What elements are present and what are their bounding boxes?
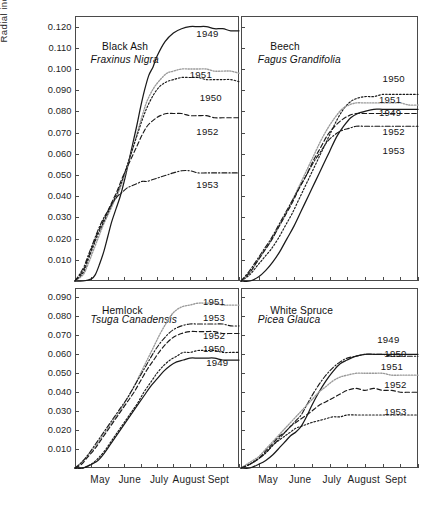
series-line-1949 xyxy=(75,358,239,468)
x-axis-label-may: May xyxy=(90,474,110,485)
series-label-1950: 1950 xyxy=(384,348,406,359)
x-axis-label-august: August xyxy=(348,474,380,485)
y-tick-label: 0.030 xyxy=(48,406,72,416)
y-tick-label: 0.050 xyxy=(48,170,72,180)
x-axis-label-august: August xyxy=(173,474,205,485)
series-line-1952 xyxy=(241,388,418,468)
series-label-1951: 1951 xyxy=(190,69,212,80)
y-tick-label: 0.070 xyxy=(48,128,72,138)
y-tick-label: 0.060 xyxy=(48,149,72,159)
x-axis-label-june: June xyxy=(118,474,141,485)
series-label-1952: 1952 xyxy=(384,379,406,390)
series-label-1949: 1949 xyxy=(377,334,399,345)
series-label-1951: 1951 xyxy=(203,296,225,307)
series-label-1953: 1953 xyxy=(203,312,225,323)
x-tick-mark xyxy=(418,464,419,468)
y-tick-label: 0.080 xyxy=(48,311,72,321)
y-tick-label: 0.050 xyxy=(48,368,72,378)
series-label-1952: 1952 xyxy=(203,330,225,341)
y-axis-title: Radial increment (in) xyxy=(0,0,9,104)
y-tick-label: 0.090 xyxy=(48,85,72,95)
panel-black-ash: 0.0100.0200.0300.0400.0500.0600.0700.080… xyxy=(75,16,239,281)
series-line-1953 xyxy=(241,415,418,468)
y-tick-label: 0.010 xyxy=(48,255,72,265)
x-axis-label-sept: Sept xyxy=(385,474,406,485)
y-tick-label: 0.060 xyxy=(48,349,72,359)
panel-white-spruce: White SprucePicea Glauca1949195019511952… xyxy=(241,288,418,468)
series-label-1949: 1949 xyxy=(379,107,401,118)
series-line-1949 xyxy=(75,26,239,281)
y-tick-label: 0.040 xyxy=(48,191,72,201)
series-canvas xyxy=(75,16,239,281)
x-tick-mark xyxy=(239,277,240,281)
y-tick-label: 0.010 xyxy=(48,444,72,454)
series-label-1950: 1950 xyxy=(383,73,405,84)
panel-hemlock: 0.0100.0200.0300.0400.0500.0600.0700.080… xyxy=(75,288,239,468)
series-label-1951: 1951 xyxy=(379,94,401,105)
figure-root: Radial increment (in) 0.0100.0200.0300.0… xyxy=(0,0,433,513)
y-tick-label: 0.110 xyxy=(48,43,71,53)
series-label-1949: 1949 xyxy=(196,28,218,39)
x-tick-mark xyxy=(418,277,419,281)
y-tick-label: 0.120 xyxy=(48,22,72,32)
series-label-1953: 1953 xyxy=(383,145,405,156)
y-tick-label: 0.090 xyxy=(48,292,72,302)
series-label-1952: 1952 xyxy=(383,126,405,137)
x-axis-label-july: July xyxy=(323,474,342,485)
series-label-1951: 1951 xyxy=(381,361,403,372)
series-line-1952 xyxy=(75,113,239,281)
x-tick-mark xyxy=(239,464,240,468)
x-axis-label-june: June xyxy=(289,474,312,485)
panel-beech: BeechFagus Grandifolia195019511949195219… xyxy=(241,16,418,281)
series-label-1953: 1953 xyxy=(384,406,406,417)
x-axis-label-july: July xyxy=(150,474,169,485)
series-line-1951 xyxy=(75,303,239,468)
series-line-1950 xyxy=(241,94,418,281)
y-tick-label: 0.100 xyxy=(48,64,72,74)
y-tick-label: 0.040 xyxy=(48,387,72,397)
series-label-1953: 1953 xyxy=(196,179,218,190)
y-tick-label: 0.020 xyxy=(48,234,72,244)
x-axis-label-sept: Sept xyxy=(208,474,229,485)
y-tick-label: 0.080 xyxy=(48,106,72,116)
series-label-1949: 1949 xyxy=(206,357,228,368)
series-label-1950: 1950 xyxy=(203,343,225,354)
y-tick-label: 0.070 xyxy=(48,330,72,340)
x-axis-label-may: May xyxy=(258,474,278,485)
y-tick-label: 0.030 xyxy=(48,212,72,222)
series-label-1950: 1950 xyxy=(200,92,222,103)
y-tick-label: 0.020 xyxy=(48,425,72,435)
series-label-1952: 1952 xyxy=(196,126,218,137)
